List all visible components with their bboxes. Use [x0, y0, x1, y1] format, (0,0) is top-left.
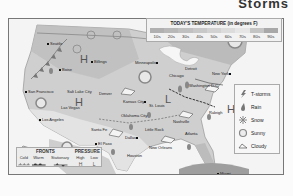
snow-icon [238, 115, 248, 125]
temperature-labels: 10s 20s 30s 40s 50s 60s 70s 80s 90s [150, 34, 278, 39]
low-pressure-symbol: L [87, 161, 101, 167]
temp-band-90s [264, 28, 278, 33]
temp-label: 50s [207, 34, 221, 39]
city-houston: Houston [127, 153, 142, 158]
legend-item-tstorms: T-storms [238, 87, 276, 100]
temp-label: 40s [193, 34, 207, 39]
temp-label: 20s [164, 34, 178, 39]
front-cold-label: Cold [17, 155, 31, 160]
temp-label: 80s [250, 34, 264, 39]
city-oklahoma-city: Oklahoma City [121, 113, 147, 118]
legend-item-snow: Snow [238, 113, 276, 126]
city-little-rock: Little Rock [145, 127, 164, 132]
city-miami: Miami [217, 171, 231, 175]
front-stationary-label: Stationary [46, 155, 73, 160]
temp-band-20s [164, 28, 178, 33]
temp-band-50s [207, 28, 221, 33]
temperature-legend: TODAY'S TEMPERATURE (in degrees F) 10s 2… [146, 18, 282, 42]
temperature-color-bar [150, 28, 278, 33]
header-title: Storms [238, 0, 289, 11]
pressure-high-label: High [74, 155, 88, 160]
city-dallas: Dallas [125, 135, 139, 140]
temperature-legend-title: TODAY'S TEMPERATURE (in degrees F) [147, 21, 281, 26]
fronts-pressure-legend: FRONTS PRESSURE Cold Warm Stationary Hig… [16, 147, 102, 167]
temp-label: 30s [178, 34, 192, 39]
cloudy-icon [238, 141, 248, 151]
city-seattle: Seattle [47, 41, 62, 46]
temp-label: 10s [150, 34, 164, 39]
city-detroit: Detroit [185, 66, 197, 71]
temp-band-60s [221, 28, 235, 33]
temp-label: 90s [264, 34, 278, 39]
pressure-low-label: Low [87, 155, 101, 160]
high-pressure-symbol: H [74, 161, 88, 167]
city-nashville: Nashville [173, 119, 189, 124]
temp-band-40s [193, 28, 207, 33]
low-pressure-mark: L [165, 93, 171, 105]
front-warm-label: Warm [31, 155, 47, 160]
stationary-front-icon [46, 162, 73, 167]
pressure-title: PRESSURE [74, 149, 101, 154]
high-pressure-mark: H [80, 53, 88, 65]
rain-icon [238, 102, 248, 112]
temp-band-70s [235, 28, 249, 33]
legend-item-cloudy: Cloudy [238, 139, 276, 152]
temp-label: 70s [235, 34, 249, 39]
legend-item-rain: Rain [238, 100, 276, 113]
city-st-louis: St. Louis [149, 103, 165, 108]
temp-band-10s [150, 28, 164, 33]
temp-label: 60s [221, 34, 235, 39]
city-boise: Boise [59, 67, 72, 72]
city-santa-fe: Santa Fe [91, 127, 107, 132]
city-washington-dc: Washington D.C. [189, 83, 219, 88]
city-los-angeles: Los Angeles [39, 117, 64, 122]
legend-item-sunny: Sunny [238, 126, 276, 139]
city-new-orleans: New Orleans [149, 145, 172, 150]
temp-band-30s [178, 28, 192, 33]
tstorms-icon [238, 89, 248, 99]
fronts-title: FRONTS [17, 149, 74, 154]
city-san-francisco: San Francisco [25, 89, 54, 94]
city-kansas-city: Kansas City [123, 99, 147, 104]
weather-legend: T-storms Rain Snow Sunny Cloudy [234, 84, 280, 154]
cold-front-icon [17, 162, 31, 167]
city-chicago: Chicago [169, 73, 184, 78]
city-atlanta: Atlanta [185, 131, 197, 136]
city-el-paso: El Paso [95, 141, 112, 146]
temp-band-80s [250, 28, 264, 33]
city-minneapolis: Minneapolis [135, 60, 159, 65]
city-salt-lake-city: Salt Lake City [67, 89, 92, 94]
city-denver: Denver [99, 91, 112, 96]
city-new-york: New York [212, 71, 232, 76]
warm-front-icon [31, 162, 47, 167]
weather-map-page: Storms [0, 0, 293, 196]
sunny-icon [238, 128, 248, 138]
city-billings: Billings [91, 59, 107, 64]
high-pressure-mark: H [75, 96, 83, 108]
city-raleigh: Raleigh [209, 110, 223, 115]
